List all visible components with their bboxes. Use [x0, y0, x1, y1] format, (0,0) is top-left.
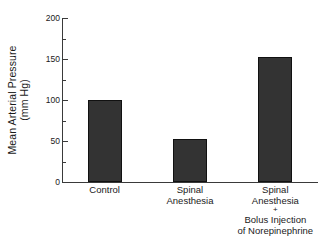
x-tick-label-line: +	[220, 206, 326, 214]
y-axis-tick-labels: 050100150200	[34, 0, 60, 240]
y-axis-title-line1: Mean Arterial Pressure	[5, 46, 17, 155]
bar	[88, 100, 122, 182]
plot-area	[62, 18, 318, 182]
x-tick-label-line: of Norepinephrine	[220, 225, 326, 236]
y-tick-label: 100	[36, 96, 60, 105]
bar	[173, 139, 207, 182]
bar-chart-figure: Mean Arterial Pressure (mm Hg) 050100150…	[0, 0, 326, 240]
x-axis-line	[62, 182, 318, 183]
y-axis-title-line2: (mm Hg)	[17, 46, 29, 155]
x-tick-label-line: Bolus Injection	[220, 214, 326, 225]
x-tick-label-line: Spinal	[220, 184, 326, 195]
y-tick-label: 150	[36, 55, 60, 64]
bar-series	[62, 18, 318, 182]
x-axis-tick-labels: ControlSpinalAnesthesiaSpinalAnesthesia+…	[62, 184, 326, 240]
x-tick-label: SpinalAnesthesia+Bolus Injectionof Norep…	[220, 184, 326, 236]
y-tick-label: 50	[36, 137, 60, 146]
y-axis-title: Mean Arterial Pressure (mm Hg)	[0, 18, 34, 182]
y-tick-label: 200	[36, 14, 60, 23]
bar	[258, 57, 292, 182]
